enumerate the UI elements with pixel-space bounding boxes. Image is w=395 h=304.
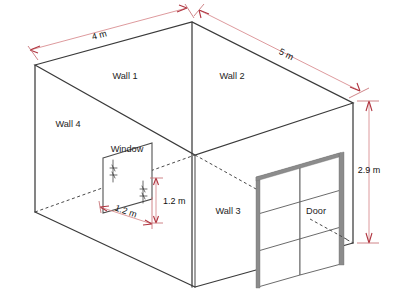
room-diagram: 4 m 5 m 2.9 m bbox=[0, 0, 395, 304]
room-isometric-svg: 4 m 5 m 2.9 m bbox=[0, 0, 395, 304]
dimension-4m-arrow-start bbox=[30, 46, 40, 53]
dimension-4m: 4 m bbox=[28, 4, 194, 60]
wall-3-label: Wall 3 bbox=[215, 206, 240, 216]
window-label: Window bbox=[111, 144, 144, 154]
dimension-2-9m-label: 2.9 m bbox=[358, 165, 381, 175]
wall-4-label: Wall 4 bbox=[55, 119, 80, 129]
ceiling-outline bbox=[35, 22, 353, 155]
dimension-4m-line bbox=[30, 8, 187, 50]
floor-edge-left bbox=[35, 212, 195, 287]
dimension-2-9m: 2.9 m bbox=[357, 101, 380, 243]
dimension-5m: 5 m bbox=[194, 4, 369, 98]
dimension-window-width-label: 1.2 m bbox=[114, 203, 139, 220]
door-post-left bbox=[256, 176, 260, 288]
dimension-window-height-label: 1.2 m bbox=[163, 196, 186, 206]
dimension-5m-tick-start bbox=[194, 4, 204, 16]
dimension-window-height: 1.2 m bbox=[150, 178, 186, 223]
wall-1-label: Wall 1 bbox=[112, 71, 137, 81]
window-assembly: Window 1.2 m 1.2 m bbox=[99, 143, 186, 229]
door-label: Door bbox=[306, 206, 326, 216]
door-assembly: Door bbox=[256, 152, 348, 288]
dimension-4m-tick-end bbox=[185, 4, 194, 18]
door-panel-left bbox=[258, 165, 300, 287]
dimension-4m-label: 4 m bbox=[91, 28, 108, 42]
door-post-right bbox=[339, 152, 344, 265]
dimension-4m-arrow-end bbox=[177, 5, 187, 12]
dimension-5m-label: 5 m bbox=[277, 46, 295, 62]
wall-2-label: Wall 2 bbox=[219, 71, 244, 81]
